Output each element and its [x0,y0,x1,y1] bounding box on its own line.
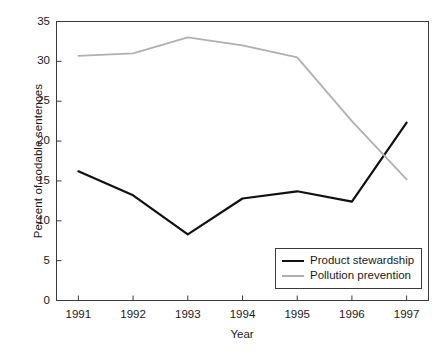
x-axis-title: Year [56,328,428,340]
chart-legend: Product stewardship Pollution prevention [275,248,422,289]
legend-label-product-stewardship: Product stewardship [310,255,414,267]
x-tick-label: 1993 [164,308,212,320]
series-line [78,123,406,235]
legend-item-pollution-prevention: Pollution prevention [282,268,414,283]
series-line [78,37,406,179]
plot-area [0,0,444,350]
x-tick-label: 1991 [54,308,102,320]
x-tick-label: 1995 [273,308,321,320]
legend-swatch-product-stewardship [282,260,304,262]
chart-figure: Percent of codable sentences 05101520253… [0,0,444,350]
data-series [78,37,406,234]
x-tick-label: 1996 [328,308,376,320]
legend-swatch-pollution-prevention [282,275,304,277]
x-tick-label: 1997 [383,308,431,320]
x-tick-label: 1994 [219,308,267,320]
legend-item-product-stewardship: Product stewardship [282,253,414,268]
legend-label-pollution-prevention: Pollution prevention [310,270,411,282]
x-tick-label: 1992 [109,308,157,320]
